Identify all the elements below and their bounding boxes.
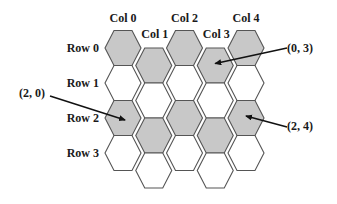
hex-cell-r1-c2: [167, 66, 203, 101]
hex-cell-r0-c2: [167, 31, 203, 66]
hex-cell-r3-c0: [105, 136, 141, 171]
hex-cell-r3-c1: [136, 153, 172, 188]
hex-cell-r1-c1: [136, 83, 172, 118]
hex-cell-r1-c0: [105, 66, 141, 101]
column-label-2: Col 2: [171, 11, 198, 25]
column-label-1: Col 1: [141, 27, 168, 41]
annotation-label-0-3: (0, 3): [287, 41, 313, 55]
annotation-label-2-0: (2, 0): [19, 86, 45, 100]
hex-grid-canvas: Col 0Col 1Col 2Col 3Col 4 Row 0Row 1Row …: [0, 0, 337, 204]
column-label-4: Col 4: [233, 11, 260, 25]
hex-cell-r2-c0: [105, 101, 141, 136]
hex-cell-r0-c0: [105, 31, 141, 66]
hex-cell-r3-c4: [228, 136, 264, 171]
hex-cell-r2-c4: [228, 101, 264, 136]
row-label-1: Row 1: [67, 76, 99, 90]
hex-cell-r0-c1: [136, 48, 172, 83]
hex-cell-r3-c2: [167, 136, 203, 171]
hex-cell-r2-c1: [136, 118, 172, 153]
row-labels: Row 0Row 1Row 2Row 3: [67, 41, 99, 160]
hex-cell-r2-c3: [197, 118, 233, 153]
row-label-3: Row 3: [67, 146, 99, 160]
column-label-0: Col 0: [110, 11, 137, 25]
hex-grid-diagram: Col 0Col 1Col 2Col 3Col 4 Row 0Row 1Row …: [0, 0, 337, 204]
row-label-2: Row 2: [67, 111, 99, 125]
column-label-3: Col 3: [203, 27, 230, 41]
hex-cell-r1-c4: [228, 66, 264, 101]
hex-cell-r3-c3: [197, 153, 233, 188]
hex-cell-r1-c3: [197, 83, 233, 118]
row-label-0: Row 0: [67, 41, 99, 55]
hex-cell-r2-c2: [167, 101, 203, 136]
hex-cells: [105, 31, 264, 189]
hex-cell-r0-c3: [197, 48, 233, 83]
annotation-label-2-4: (2, 4): [287, 119, 313, 133]
